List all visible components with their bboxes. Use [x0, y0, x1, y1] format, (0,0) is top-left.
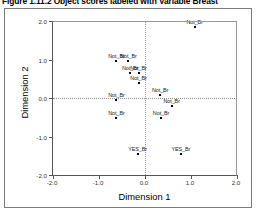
data-point-label: Not_Br [163, 98, 179, 104]
data-point [171, 105, 173, 107]
data-point [194, 26, 196, 28]
y-axis-tick-label: 1.0 [33, 56, 47, 63]
figure-container: Figure 1.11.2 Object scores labeled with… [0, 0, 256, 212]
data-point [160, 117, 162, 119]
figure-caption: Figure 1.11.2 Object scores labeled with… [2, 0, 256, 6]
y-axis-tick-label: -1.0 [33, 133, 47, 140]
y-axis-tick [49, 175, 53, 176]
data-point [127, 60, 129, 62]
data-point-label: Not_Br [108, 92, 124, 98]
data-point [137, 153, 139, 155]
data-point [138, 82, 140, 84]
y-axis-tick-label: 0.0 [33, 95, 47, 102]
y-axis-title: Dimension 2 [19, 33, 30, 153]
x-axis-tick-label: 1.0 [186, 179, 195, 186]
data-point-label: Not_Br [108, 110, 124, 116]
y-axis-tick [49, 98, 53, 99]
chart-frame: Not_BrNot_BrNot_BrNot_BrNot_BrNot_BrNot_… [4, 8, 252, 208]
y-axis-tick [49, 60, 53, 61]
data-point-label: Not_Br [130, 65, 146, 71]
data-point [129, 72, 131, 74]
x-axis-tick-label: -1.0 [93, 179, 104, 186]
data-point-label: Not_Br [130, 75, 146, 81]
data-point [180, 153, 182, 155]
y-axis-tick [49, 21, 53, 22]
data-point-label: Not_Br [120, 53, 136, 59]
data-point [159, 94, 161, 96]
data-point-label: YES_Br [171, 146, 190, 152]
y-axis-tick-label: -2.0 [33, 172, 47, 179]
x-axis-title: Dimension 1 [52, 191, 237, 202]
x-axis-tick-label: 2.0 [232, 179, 241, 186]
data-point [115, 99, 117, 101]
data-point-label: Not_Br [153, 110, 169, 116]
y-axis-tick-label: 2.0 [33, 18, 47, 25]
data-point [115, 60, 117, 62]
data-point [115, 117, 117, 119]
data-point [138, 72, 140, 74]
reference-line-horizontal [53, 98, 237, 99]
plot-area: Not_BrNot_BrNot_BrNot_BrNot_BrNot_BrNot_… [52, 21, 237, 176]
x-axis-tick-label: -2.0 [47, 179, 58, 186]
data-point-label: Not_Br [186, 19, 202, 25]
data-point-label: YES_Br [128, 146, 147, 152]
y-axis-tick [49, 137, 53, 138]
data-point-label: Not_Br [152, 87, 168, 93]
x-axis-tick-label: 0.0 [140, 179, 149, 186]
